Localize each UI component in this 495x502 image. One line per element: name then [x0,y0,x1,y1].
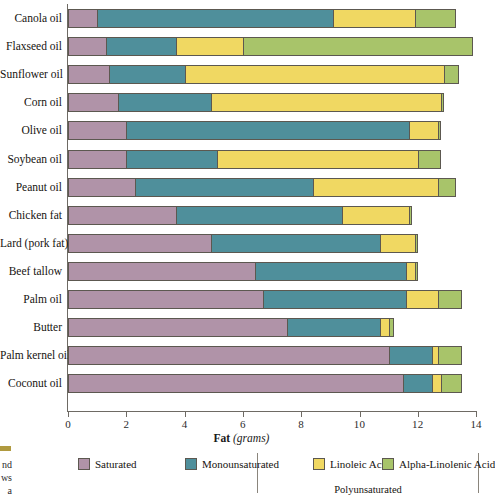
bar-segment [68,9,97,28]
bar-segment [68,150,126,169]
bar-segment [403,374,432,393]
bar-segment [68,290,263,309]
bar-segment [438,121,441,140]
x-axis-title-units: (grams) [233,432,269,444]
stacked-bar [68,37,473,56]
bar-segment [109,65,185,84]
legend-swatch [185,458,197,470]
bar-segment [438,178,455,197]
bar-row: Beef tallow [0,257,483,285]
bar-row: Soybean oil [0,145,483,173]
bar-segment [68,121,126,140]
bar-segment [176,37,243,56]
bar-row-label: Sunflower oil [0,60,62,88]
margin-accent-rule [0,446,11,451]
x-tick-label: 6 [228,418,258,430]
bar-segment [243,37,473,56]
bar-segment [68,37,106,56]
stacked-bar [68,150,441,169]
bar-row-label: Palm oil [0,285,62,313]
bar-segment [185,65,444,84]
bar-segment [118,93,211,112]
bar-segment [68,93,118,112]
bar-row-label: Peanut oil [0,173,62,201]
bar-segment [126,150,216,169]
bar-row-label: Coconut oil [0,369,62,397]
x-tick-mark [243,412,244,417]
x-tick-mark [360,412,361,417]
bar-segment [255,262,407,281]
bar-row: Coconut oil [0,369,483,397]
legend-entry[interactable]: Alpha-Linolenic Acid [382,455,495,473]
stacked-bar [68,262,418,281]
legend-entry[interactable]: Saturated [78,455,137,473]
legend-entry[interactable]: Linoleic Acid [313,455,390,473]
bar-segment [389,346,433,365]
bar-row: Canola oil [0,4,483,32]
legend: Polyunsaturated SaturatedMonounsaturated… [0,455,483,502]
bar-segment [97,9,333,28]
bar-row: Lard (pork fat) [0,229,483,257]
margin-note: ndwsa [0,458,12,497]
x-tick-label: 8 [286,418,316,430]
bar-segment [415,262,418,281]
bar-segment [68,178,135,197]
bar-segment [68,206,176,225]
bar-row: Butter [0,313,483,341]
bar-row: Peanut oil [0,173,483,201]
bar-row: Corn oil [0,88,483,116]
bar-row-label: Chicken fat [0,201,62,229]
bar-row-label: Palm kernel oil [0,341,62,369]
bar-segment [415,9,456,28]
bar-segment [406,290,438,309]
bar-segment [126,121,409,140]
bar-segment [217,150,418,169]
bar-segment [68,346,389,365]
bar-segment [406,262,415,281]
margin-note-line: a [0,484,12,497]
bar-segment [380,234,415,253]
bar-segment [418,150,441,169]
x-tick-mark [476,412,477,417]
bar-segment [380,318,389,337]
stacked-bar [68,206,412,225]
bar-segment [313,178,438,197]
stacked-bar [68,178,456,197]
bar-segment [342,206,409,225]
x-tick-label: 4 [170,418,200,430]
bar-segment [135,178,313,197]
x-tick-label: 2 [111,418,141,430]
legend-entry[interactable]: Monounsaturated [185,455,279,473]
legend-label: Alpha-Linolenic Acid [399,458,495,470]
bar-segment [68,318,287,337]
bar-segment [438,290,461,309]
bar-row: Palm kernel oil [0,341,483,369]
bar-segment [263,290,406,309]
bar-row: Olive oil [0,116,483,144]
legend-swatch [382,458,394,470]
stacked-bar [68,93,444,112]
bar-segment [333,9,415,28]
bar-segment [106,37,176,56]
bar-row-label: Flaxseed oil [0,32,62,60]
x-tick-mark [68,412,69,417]
polyunsaturated-group-label-text: Polyunsaturated [328,484,408,495]
stacked-bar [68,9,456,28]
bar-segment [211,234,380,253]
x-tick-mark [185,412,186,417]
stacked-bar [68,346,462,365]
bar-segment [68,262,255,281]
bar-segment [68,234,211,253]
margin-note-line: nd [0,458,12,471]
stacked-bar [68,121,441,140]
bar-row: Palm oil [0,285,483,313]
bar-row-label: Soybean oil [0,145,62,173]
x-tick-label: 0 [53,418,83,430]
bar-row: Sunflower oil [0,60,483,88]
stacked-bar [68,290,462,309]
bar-segment [415,234,418,253]
x-tick-mark [418,412,419,417]
bar-row-label: Beef tallow [0,257,62,285]
stacked-bar [68,318,394,337]
